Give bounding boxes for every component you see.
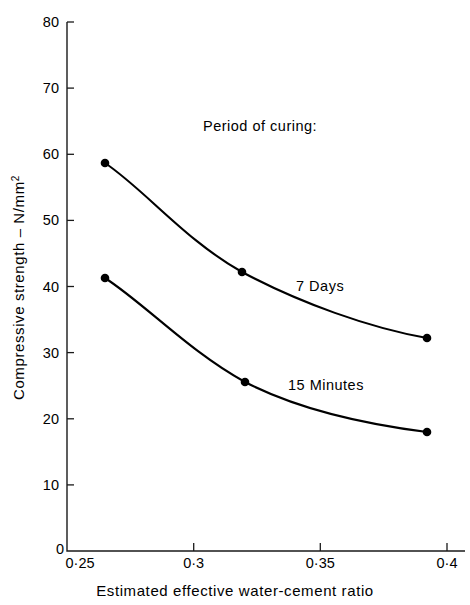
y-axis-title-superscript: 2: [10, 175, 21, 181]
chart-canvas: 80 70 60 50 40 30 20 10 0 0·25 0·3 0·35 …: [0, 0, 470, 605]
series-curve-7-days: [105, 163, 427, 338]
data-point: [423, 334, 432, 343]
ytick-label-70: 70: [43, 80, 59, 96]
data-point: [241, 378, 250, 387]
axis-lines: [67, 22, 465, 551]
x-axis-ticks: [194, 543, 447, 551]
xtick-label-035: 0·35: [306, 555, 335, 571]
y-axis-ticks: [67, 22, 74, 485]
y-axis-title-text: Compressive strength – N/mm: [10, 181, 27, 400]
xtick-label-04: 0·4: [437, 555, 458, 571]
chart-figure: 80 70 60 50 40 30 20 10 0 0·25 0·3 0·35 …: [0, 0, 470, 605]
xtick-label-025: 0·25: [65, 555, 94, 571]
ytick-label-10: 10: [43, 477, 59, 493]
series-curve-15-minutes: [105, 278, 427, 432]
ytick-label-30: 30: [43, 345, 59, 361]
ytick-label-20: 20: [43, 411, 59, 427]
ytick-label-80: 80: [43, 14, 59, 30]
ytick-label-50: 50: [43, 212, 59, 228]
y-axis-title: Compressive strength – N/mm2: [10, 175, 27, 400]
ytick-label-40: 40: [43, 279, 59, 295]
legend-title: Period of curing:: [203, 118, 317, 134]
data-point: [101, 274, 110, 283]
ytick-label-0: 0: [56, 541, 64, 557]
data-point: [101, 159, 110, 168]
series-label-15-minutes: 15 Minutes: [288, 377, 364, 393]
xtick-label-03: 0·3: [183, 555, 204, 571]
series-label-7-days: 7 Days: [296, 278, 344, 294]
x-axis-title: Estimated effective water-cement ratio: [96, 582, 374, 599]
ytick-label-60: 60: [43, 146, 59, 162]
svg-text:Compressive strength – N/mm2: Compressive strength – N/mm2: [10, 175, 27, 400]
data-point: [423, 428, 432, 437]
data-point: [238, 268, 247, 277]
